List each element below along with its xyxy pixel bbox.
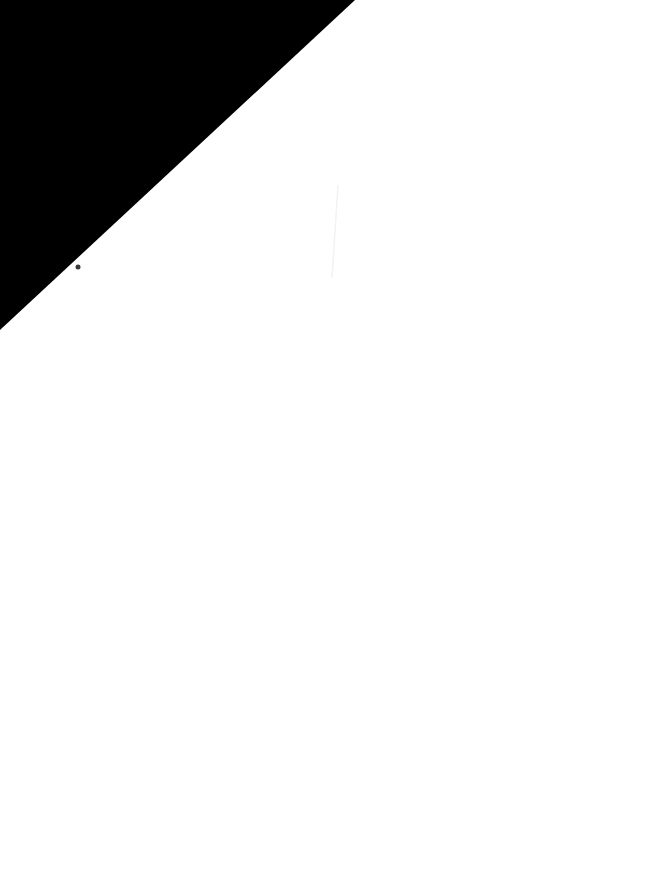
- shape-layer: [0, 0, 665, 888]
- canvas: [0, 0, 665, 888]
- faint-streak-line: [332, 185, 338, 278]
- black-triangle-shape: [0, 0, 355, 330]
- dark-dot-marker: [76, 265, 81, 270]
